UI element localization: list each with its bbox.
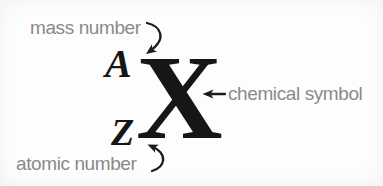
chemical-symbol-letter: X (136, 31, 223, 164)
chemical-symbol-label: chemical symbol (228, 83, 362, 104)
atomic-number-label: atomic number (16, 153, 138, 174)
atomic-number-symbol: Z (110, 111, 134, 153)
mass-number-symbol: A (102, 41, 132, 86)
nuclide-notation-diagram: mass number A X Z chemical symbol atomic… (0, 0, 383, 186)
nuclide-notation-figure: mass number A X Z chemical symbol atomic… (0, 0, 383, 186)
mass-number-label: mass number (30, 17, 142, 38)
